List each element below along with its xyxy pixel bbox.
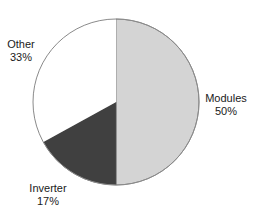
label-inverter-pct: 17% [29, 195, 66, 208]
label-other-name: Other [7, 38, 35, 51]
label-modules-name: Modules [205, 92, 247, 105]
label-other-pct: 33% [7, 51, 35, 64]
label-inverter: Inverter 17% [29, 182, 66, 208]
label-modules-pct: 50% [205, 105, 247, 118]
label-modules: Modules 50% [205, 92, 247, 118]
label-inverter-name: Inverter [29, 182, 66, 195]
label-other: Other 33% [7, 38, 35, 64]
slice-modules [116, 19, 199, 185]
pie-slices [33, 19, 199, 185]
